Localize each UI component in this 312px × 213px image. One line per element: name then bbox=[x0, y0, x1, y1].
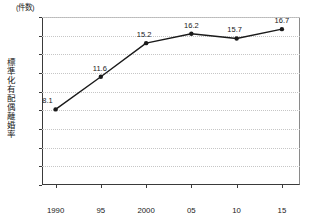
x-tick-mark bbox=[56, 185, 57, 188]
x-tick-label: 95 bbox=[81, 206, 121, 213]
x-tick-label: 1990 bbox=[36, 206, 76, 213]
data-point-marker bbox=[53, 107, 57, 111]
data-point-label: 15.7 bbox=[218, 25, 252, 34]
data-point-marker bbox=[144, 41, 148, 45]
x-tick-label: 15 bbox=[262, 206, 302, 213]
y-tick-mark bbox=[39, 185, 42, 186]
data-point-marker bbox=[234, 36, 238, 40]
data-point-label: 11.6 bbox=[83, 64, 117, 73]
x-tick-label: 05 bbox=[171, 206, 211, 213]
plot-area: 024681012141618 1990952000051015 (年) 8.1… bbox=[42, 17, 300, 185]
data-point-label: 15.2 bbox=[127, 30, 161, 39]
y-axis-title: 標準化有配偶離婚率 bbox=[2, 44, 15, 152]
data-point-marker bbox=[189, 32, 193, 36]
x-tick-mark bbox=[237, 185, 238, 188]
divorce-rate-line-chart: (件数) 標準化有配偶離婚率 024681012141618 199095200… bbox=[0, 0, 312, 213]
x-tick-mark bbox=[101, 185, 102, 188]
data-point-label: 8.1 bbox=[31, 96, 65, 105]
data-point-marker bbox=[280, 27, 284, 31]
x-tick-mark bbox=[282, 185, 283, 188]
data-point-label: 16.2 bbox=[174, 21, 208, 30]
x-tick-label: 10 bbox=[217, 206, 257, 213]
x-tick-mark bbox=[191, 185, 192, 188]
data-series-svg bbox=[42, 17, 300, 185]
data-point-marker bbox=[99, 75, 103, 79]
x-tick-mark bbox=[146, 185, 147, 188]
y-axis-unit-caption: (件数) bbox=[16, 1, 34, 12]
data-point-label: 16.7 bbox=[265, 16, 299, 25]
x-tick-label: 2000 bbox=[126, 206, 166, 213]
